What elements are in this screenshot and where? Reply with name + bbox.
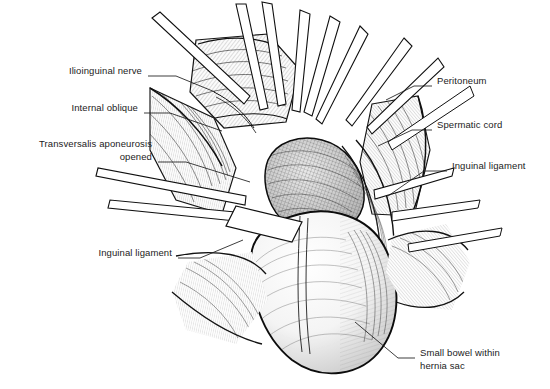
label-peritoneum: Peritoneum xyxy=(437,75,487,88)
label-transversalis-aponeurosis-opened: Transversalis aponeurosis opened xyxy=(39,138,152,163)
illustration-canvas: Ilioinguinal nerveInternal obliqueTransv… xyxy=(0,0,550,389)
label-inguinal-ligament-right: Inguinal ligament xyxy=(452,160,526,173)
label-inguinal-ligament-left: Inguinal ligament xyxy=(98,247,172,260)
label-internal-oblique: Internal oblique xyxy=(71,102,138,115)
anatomical-illustration xyxy=(0,0,550,389)
label-small-bowel-within-hernia-sac: Small bowel within hernia sac xyxy=(420,347,500,372)
label-spermatic-cord: Spermatic cord xyxy=(437,119,502,132)
label-ilioinguinal-nerve: Ilioinguinal nerve xyxy=(69,65,142,78)
